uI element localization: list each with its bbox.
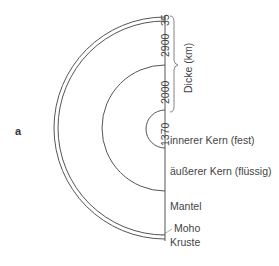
label-mantle: Mantel xyxy=(170,200,202,212)
label-crust: Kruste xyxy=(170,236,200,248)
core-mantle-boundary-arc xyxy=(102,65,165,191)
surface-arc xyxy=(54,17,165,239)
label-outer-core: äußerer Kern (flüssig) xyxy=(170,165,272,177)
label-moho: Moho xyxy=(174,222,200,234)
thickness-axis-label: Dicke (km) xyxy=(182,43,194,93)
panel-label: a xyxy=(15,125,21,137)
thickness-crust: 35 xyxy=(159,14,171,26)
thickness-mantle: 2900 xyxy=(159,34,171,57)
earth-cross-section xyxy=(0,0,279,266)
label-inner-core: innerer Kern (fest) xyxy=(170,134,255,146)
thickness-brace xyxy=(170,16,178,112)
moho-arc xyxy=(58,21,165,235)
moho-leader-line xyxy=(161,229,172,236)
thickness-outer-core: 2000 xyxy=(159,81,171,104)
